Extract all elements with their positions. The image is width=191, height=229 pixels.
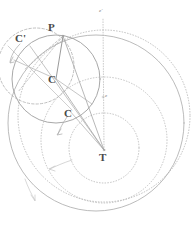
- label-epicycle-center-C: C: [48, 74, 56, 85]
- label-epicycle-center-C-prime: C': [15, 33, 26, 44]
- line-C-chord-lower-right: [56, 79, 92, 104]
- diagram-canvas: [0, 0, 191, 229]
- label-equant-e: e: [105, 93, 107, 98]
- label-planet-P: P: [48, 22, 55, 33]
- inner-dotted-circle: [41, 77, 167, 203]
- line-T-to-C-prime: [30, 46, 104, 150]
- label-equant-e-prime: e': [99, 8, 103, 13]
- motion-arrow-outer-deferent: [25, 179, 35, 200]
- motion-arrow-inner-deferent: [50, 160, 72, 169]
- motion-arrowhead-outer-deferent: [31, 195, 35, 201]
- label-earth-T: T: [99, 152, 106, 163]
- motion-arrowhead-inner-deferent: [49, 166, 55, 171]
- equant-axis-line: [103, 18, 104, 150]
- label-epicycle-center-C-lower: C: [64, 108, 72, 119]
- epicycle-diagram: P C C' C T e e': [0, 0, 191, 229]
- line-C-to-P: [56, 36, 63, 79]
